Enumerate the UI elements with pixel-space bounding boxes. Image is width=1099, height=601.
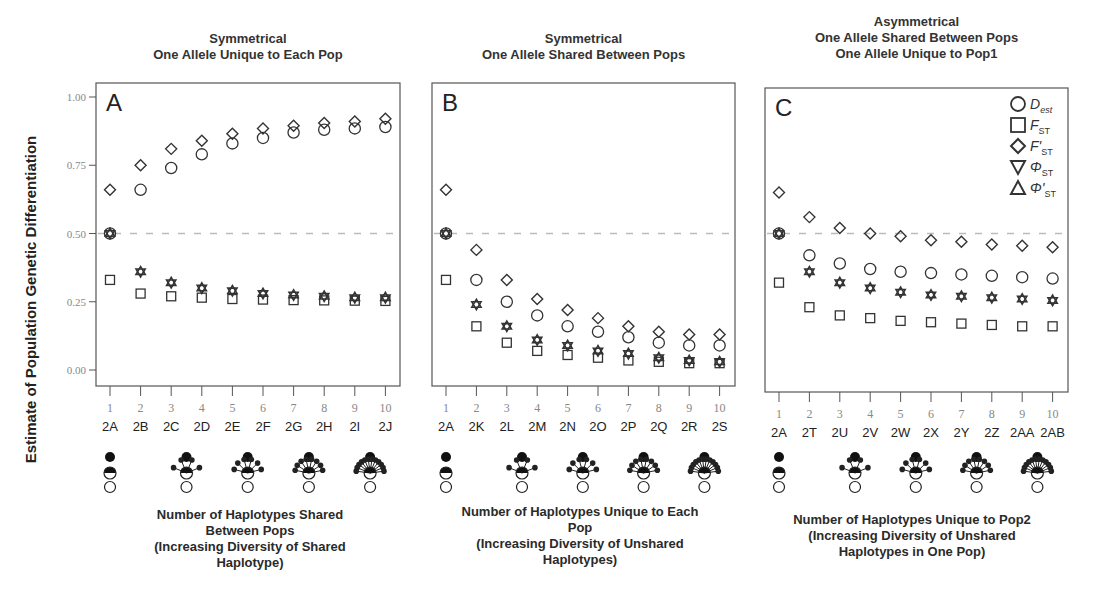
- diamond-marker: [834, 223, 845, 234]
- open-node: [303, 482, 314, 493]
- x-tick-label: 1: [107, 401, 113, 415]
- circle-marker: [834, 258, 845, 269]
- x-scenario-label: 2Y: [953, 425, 969, 440]
- open-node: [242, 482, 253, 493]
- x-tick-label: 1: [443, 401, 449, 415]
- node-dot: [644, 456, 650, 462]
- node-dot: [960, 467, 966, 473]
- node-dot: [441, 452, 451, 462]
- node-dot: [105, 452, 115, 462]
- diamond-marker: [349, 116, 360, 127]
- x-scenario-label: 2V: [862, 425, 878, 440]
- circle-marker: [956, 269, 967, 280]
- open-node: [517, 482, 528, 493]
- y-tick-label: 0.25: [67, 296, 87, 308]
- square-marker: [1018, 322, 1027, 331]
- node-dot: [590, 460, 596, 466]
- x-tick-label: 4: [199, 401, 205, 415]
- x-scenario-label: 2D: [193, 419, 210, 434]
- series-dest: [104, 121, 391, 239]
- diamond-marker: [714, 329, 725, 340]
- half-filled-node: [577, 467, 589, 473]
- x-scenario-label: 2G: [285, 419, 302, 434]
- circle-marker: [380, 121, 391, 132]
- panel-b-x-caption: Number of Haplotypes Unique to Each Pop …: [430, 504, 730, 568]
- panel-b: B12A22K32L42M52N62O72P82Q92R102S: [432, 83, 735, 493]
- open-node: [638, 482, 649, 493]
- triangle-up-marker: [197, 283, 206, 291]
- caption-line: Number of Haplotypes Unique to Each: [430, 504, 730, 520]
- square-marker: [472, 322, 481, 331]
- x-scenario-label: 2K: [468, 419, 484, 434]
- legend-label: FST: [1030, 117, 1051, 136]
- circle-marker: [804, 250, 815, 261]
- node-dot: [189, 457, 195, 463]
- haplotype-network-icon: [688, 452, 721, 493]
- plot-frame: [96, 83, 400, 386]
- panel-letter: A: [106, 89, 122, 116]
- circle-marker: [1047, 273, 1058, 284]
- x-scenario-label: 2O: [589, 419, 606, 434]
- circle-marker: [471, 274, 482, 285]
- legend-subscript: est: [1040, 105, 1053, 115]
- y-tick-label: 1.00: [67, 91, 87, 103]
- x-scenario-label: 2E: [224, 419, 240, 434]
- node-dot: [966, 459, 972, 465]
- x-tick-label: 6: [260, 401, 266, 415]
- legend: DestFSTF'STΦSTΦ'ST: [1011, 96, 1056, 199]
- half-filled-node: [638, 467, 650, 473]
- series-st: [441, 231, 724, 367]
- series-fst: [775, 278, 1058, 331]
- triangle-up-marker: [593, 346, 602, 354]
- node-dot: [381, 468, 387, 474]
- series-fst: [441, 184, 726, 340]
- node-dot: [655, 467, 661, 473]
- x-tick-label: 10: [714, 401, 726, 415]
- circle-marker: [532, 310, 543, 321]
- haplotype-network-icon: [899, 452, 932, 493]
- caption-line: (Increasing Diversity of Shared: [110, 539, 390, 555]
- open-node: [105, 482, 116, 493]
- caption-line: (Increasing Diversity of Unshared: [430, 536, 730, 552]
- open-node: [365, 482, 376, 493]
- node-dot: [584, 457, 590, 463]
- y-tick-label: 0.00: [67, 364, 87, 376]
- square-marker: [896, 316, 905, 325]
- x-tick-label: 8: [989, 407, 995, 421]
- node-dot: [988, 467, 994, 473]
- x-tick-label: 5: [898, 407, 904, 421]
- triangle-up-marker: [835, 277, 844, 285]
- legend-triangle-down-icon: [1011, 161, 1025, 174]
- x-tick-label: 3: [837, 407, 843, 421]
- x-tick-label: 9: [1019, 407, 1025, 421]
- node-dot: [255, 460, 261, 466]
- triangle-up-marker: [866, 283, 875, 291]
- series-st: [441, 228, 724, 364]
- x-tick-label: 2: [806, 407, 812, 421]
- series-dest: [773, 228, 1058, 284]
- node-dot: [1048, 468, 1054, 474]
- diamond-marker: [926, 235, 937, 246]
- caption-line: (Increasing Diversity of Unshared: [762, 528, 1062, 544]
- haplotype-network-icon: [627, 452, 660, 493]
- half-filled-node: [910, 467, 922, 473]
- node-dot: [774, 452, 784, 462]
- legend-square-icon: [1011, 118, 1025, 132]
- triangle-up-marker: [136, 267, 145, 275]
- x-scenario-label: 2X: [923, 425, 939, 440]
- node-dot: [298, 459, 304, 465]
- open-node: [850, 482, 861, 493]
- haplotype-network-icon: [353, 452, 386, 493]
- x-scenario-label: 2W: [891, 425, 911, 440]
- node-dot: [258, 467, 264, 473]
- x-tick-label: 9: [352, 401, 358, 415]
- half-filled-node: [971, 467, 983, 473]
- half-filled-node: [773, 467, 785, 473]
- diamond-marker: [804, 212, 815, 223]
- open-node: [971, 482, 982, 493]
- circle-marker: [166, 162, 177, 173]
- x-tick-label: 10: [379, 401, 391, 415]
- caption-line: Number of Haplotypes Unique to Pop2: [762, 512, 1062, 528]
- node-dot: [318, 462, 324, 468]
- x-tick-label: 2: [473, 401, 479, 415]
